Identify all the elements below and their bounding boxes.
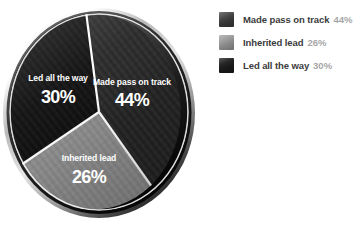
legend-label-led-all-the-way: Led all the way [243, 60, 309, 71]
legend-item-inherited-lead[interactable]: Inherited lead 26% [219, 31, 359, 53]
chart-legend: Made pass on track 44% Inherited lead 26… [219, 8, 359, 77]
pie-chart-disc: Made pass on track 44% Inherited lead 26… [1, 6, 197, 220]
legend-label-inherited-lead: Inherited lead [243, 37, 303, 48]
legend-swatch-icon-inherited-lead [219, 35, 234, 50]
slice-label-led-all-the-way: Led all the way [28, 73, 88, 83]
pie-chart-svg: Made pass on track 44% Inherited lead 26… [1, 6, 197, 220]
slice-label-made-pass-on-track: Made pass on track [93, 77, 171, 87]
slice-value-inherited-lead: 26% [72, 167, 107, 187]
legend-item-led-all-the-way[interactable]: Led all the way 30% [219, 54, 359, 76]
pie-chart-figure: Made pass on track 44% Inherited lead 26… [0, 0, 359, 226]
legend-value-inherited-lead: 26% [307, 37, 326, 48]
legend-value-made-pass-on-track: 44% [333, 14, 352, 25]
slice-value-made-pass-on-track: 44% [115, 90, 150, 110]
legend-label-made-pass-on-track: Made pass on track [243, 14, 329, 25]
legend-item-made-pass-on-track[interactable]: Made pass on track 44% [219, 8, 359, 30]
legend-swatch-icon-made-pass-on-track [219, 12, 234, 27]
slice-value-led-all-the-way: 30% [41, 87, 76, 107]
legend-value-led-all-the-way: 30% [313, 60, 332, 71]
slice-label-inherited-lead: Inherited lead [62, 153, 116, 163]
legend-swatch-icon-led-all-the-way [219, 58, 234, 73]
